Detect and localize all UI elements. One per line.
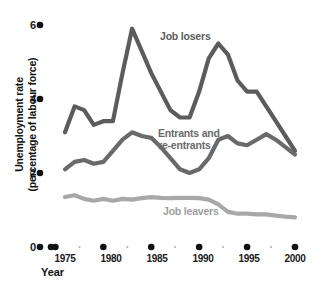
series-lines-group [65, 29, 295, 218]
x-tick-label-1985: 1985 [137, 253, 177, 264]
x-tick-label-1995: 1995 [229, 253, 269, 264]
x-tick-label-2000: 2000 [275, 253, 315, 264]
x-origin-dot [48, 244, 55, 251]
series-label-job-losers: Job losers [160, 30, 211, 42]
x-tick-dot-1995 [244, 244, 251, 251]
x-minor-tick-dot [174, 246, 176, 248]
x-tick-label-1990: 1990 [183, 253, 223, 264]
y-axis-title-line2: (percentage of labour force) [26, 37, 39, 212]
x-tick-dot-1990 [196, 244, 203, 251]
y-tick-label-0: 0 [22, 241, 36, 253]
x-tick-label-1980: 1980 [91, 253, 131, 264]
x-minor-tick-dot [126, 246, 128, 248]
y-tick-dot-0 [37, 244, 44, 251]
y-axis-title-line1: Unemployment rate [13, 77, 25, 172]
x-tick-dot-1980 [100, 244, 107, 251]
y-tick-label-6: 6 [22, 19, 36, 31]
series-label-entrants-line1: Entrants and [158, 127, 220, 139]
unemployment-rate-chart: 6 4 2 0 1975 1980 1985 1990 1995 2000 Un… [0, 0, 325, 289]
series-label-entrants: Entrants and re-entrants [158, 127, 220, 151]
x-tick-dot-2000 [292, 244, 299, 251]
x-minor-tick-dot [78, 246, 80, 248]
x-minor-tick-dot [222, 246, 224, 248]
x-tick-dot-1985 [148, 244, 155, 251]
y-tick-dot-6 [37, 22, 44, 29]
y-axis-title: Unemployment rate (percentage of labour … [13, 37, 38, 212]
series-label-entrants-line2: re-entrants [158, 139, 211, 151]
x-minor-tick-dot [270, 246, 272, 248]
x-tick-label-1975: 1975 [45, 253, 85, 264]
x-axis-tick-dots [48, 244, 299, 251]
series-label-job-leavers: Job leavers [163, 205, 219, 217]
x-axis-title: Year [41, 266, 64, 278]
